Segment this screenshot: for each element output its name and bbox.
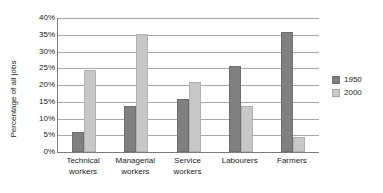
bar[interactable] [136,34,148,152]
x-axis-category-label: Labourers [214,155,266,187]
x-axis-category-label-line: Labourers [214,155,266,166]
y-axis-tick-labels: 0%5%10%15%20%25%30%35%40% [22,18,55,152]
legend-label: 2000 [344,88,362,97]
y-axis-tick-label: 0% [22,148,55,156]
legend-item[interactable]: 2000 [332,87,380,98]
x-axis-category-label-line: workers [109,166,161,177]
x-axis-category-label-line: workers [57,166,109,177]
y-axis-tick-label: 10% [22,115,55,123]
bar-group [58,18,110,152]
y-axis-tick-label: 40% [22,14,55,22]
bar[interactable] [84,70,96,152]
legend-swatch [332,76,340,84]
x-axis-category-label: Serviceworkers [161,155,213,187]
chart-legend: 19502000 [332,74,380,100]
plot-area [57,18,319,153]
bar[interactable] [189,82,201,152]
bar[interactable] [72,132,84,152]
bar-groups [58,18,319,152]
bar[interactable] [293,137,305,152]
y-axis-tick-label: 15% [22,98,55,106]
legend-label: 1950 [344,75,362,84]
bar[interactable] [177,99,189,152]
bar[interactable] [124,106,136,152]
x-axis-category-label-line: Managerial [109,155,161,166]
bar-group [162,18,214,152]
y-axis-tick-label: 20% [22,81,55,89]
x-axis-category-label: Farmers [266,155,318,187]
bar-group [215,18,267,152]
y-axis-tick-label: 30% [22,48,55,56]
legend-swatch [332,89,340,97]
x-axis-category-labels: TechnicalworkersManagerialworkersService… [57,155,318,187]
bar-group [267,18,319,152]
y-axis-tick-label: 5% [22,131,55,139]
bar-group [110,18,162,152]
legend-item[interactable]: 1950 [332,74,380,85]
bar[interactable] [281,32,293,152]
bar[interactable] [241,106,253,152]
y-axis-tick-label: 25% [22,64,55,72]
x-axis-category-label-line: workers [161,166,213,177]
x-axis-category-label-line: Farmers [266,155,318,166]
bar[interactable] [229,66,241,152]
x-axis-category-label-line: Service [161,155,213,166]
bar-chart: Percentage of all jobs 0%5%10%15%20%25%3… [0,0,383,193]
y-axis-title: Percentage of all jobs [7,32,21,166]
x-axis-category-label: Managerialworkers [109,155,161,187]
y-axis-tick-label: 35% [22,31,55,39]
x-axis-category-label: Technicalworkers [57,155,109,187]
x-axis-category-label-line: Technical [57,155,109,166]
